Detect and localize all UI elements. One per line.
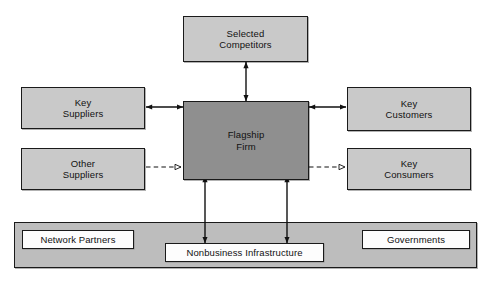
node-key-consumers: Key Consumers (347, 148, 471, 190)
node-governments-label: Governments (387, 234, 445, 246)
node-flagship-firm-text: Flagship Firm (228, 129, 265, 152)
node-other-suppliers-line1: Other (63, 158, 104, 170)
node-key-customers-line2: Customers (386, 109, 433, 121)
diagram-canvas: Flagship (dashed, open head) --> Key Con… (0, 0, 490, 284)
node-other-suppliers-text: Other Suppliers (63, 158, 104, 181)
node-key-consumers-line2: Consumers (384, 169, 433, 181)
node-nonbusiness-infrastructure: Nonbusiness Infrastructure (165, 243, 324, 262)
node-key-suppliers-line2: Suppliers (63, 108, 104, 120)
node-selected-competitors-text: Selected Competitors (219, 28, 271, 51)
node-key-customers-text: Key Customers (386, 98, 433, 121)
node-network-partners: Network Partners (22, 230, 134, 249)
node-flagship-firm-line1: Flagship (228, 129, 265, 141)
node-selected-competitors: Selected Competitors (183, 16, 308, 62)
node-network-partners-label: Network Partners (41, 234, 116, 246)
node-key-suppliers: Key Suppliers (21, 87, 145, 129)
node-key-suppliers-text: Key Suppliers (63, 97, 104, 120)
node-selected-competitors-line1: Selected (219, 28, 271, 40)
node-nonbusiness-infrastructure-label: Nonbusiness Infrastructure (186, 247, 302, 259)
node-key-suppliers-line1: Key (63, 97, 104, 109)
node-flagship-firm-line2: Firm (228, 141, 265, 153)
node-flagship-firm: Flagship Firm (183, 101, 309, 180)
node-selected-competitors-line2: Competitors (219, 39, 271, 51)
node-other-suppliers: Other Suppliers (21, 148, 145, 190)
node-key-consumers-line1: Key (384, 158, 433, 170)
node-key-customers: Key Customers (347, 87, 471, 131)
node-other-suppliers-line2: Suppliers (63, 169, 104, 181)
node-key-customers-line1: Key (386, 98, 433, 110)
node-governments: Governments (362, 230, 470, 249)
node-key-consumers-text: Key Consumers (384, 158, 433, 181)
